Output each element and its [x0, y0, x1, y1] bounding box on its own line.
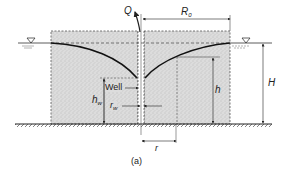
discharge-label: Q: [124, 6, 132, 16]
head-label: h: [215, 85, 221, 95]
water-table-marker-left-icon: [27, 38, 35, 43]
impermeable-base: [15, 124, 272, 127]
aquifer-diagram: [0, 0, 287, 177]
radius-of-influence-label: R0: [181, 7, 192, 18]
water-table-marker-right-icon: [242, 38, 250, 43]
discharge-arrow: [135, 12, 140, 32]
soil-block-left: [51, 31, 138, 124]
well-label: Well: [105, 83, 122, 92]
radial-distance-label: r: [155, 144, 158, 153]
initial-head-label: H: [268, 78, 275, 88]
well-radius-label: rw: [110, 101, 117, 111]
figure-caption: (a): [131, 157, 142, 166]
well-head-label: hw: [92, 95, 102, 106]
well-shaft: [138, 14, 144, 135]
